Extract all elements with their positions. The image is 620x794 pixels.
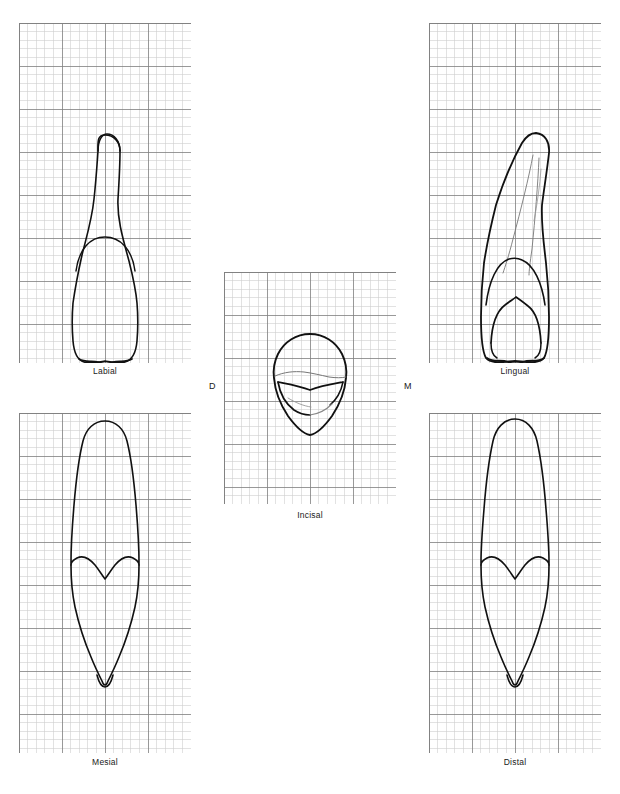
grid-distal xyxy=(429,413,601,753)
grid-mesial xyxy=(19,413,191,753)
panel-label-mesial: Mesial xyxy=(19,757,191,767)
orientation-label-distal: D xyxy=(209,381,216,391)
grid-labial xyxy=(19,23,191,363)
panel-label-incisal: Incisal xyxy=(224,510,396,520)
panel-label-distal: Distal xyxy=(429,757,601,767)
panel-label-lingual: Lingual xyxy=(429,366,601,376)
panel-labial: Labial xyxy=(19,23,191,363)
dental-anatomy-plate: Labial Lingual xyxy=(0,0,620,794)
panel-incisal: Incisal xyxy=(224,272,396,504)
grid-incisal xyxy=(224,272,396,504)
panel-label-labial: Labial xyxy=(19,366,191,376)
panel-mesial: Mesial xyxy=(19,413,191,753)
orientation-label-mesial: M xyxy=(404,381,412,391)
panel-distal: Distal xyxy=(429,413,601,753)
grid-lingual xyxy=(429,23,601,363)
panel-lingual: Lingual xyxy=(429,23,601,363)
